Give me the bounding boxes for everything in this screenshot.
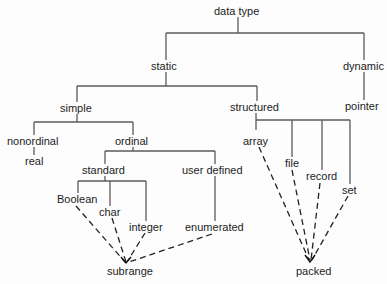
node-set: set (341, 184, 358, 196)
node-enumerated: enumerated (184, 221, 245, 233)
node-pointer: pointer (344, 100, 380, 112)
node-array: array (242, 135, 269, 147)
node-dynamic: dynamic (342, 60, 385, 72)
node-structured: structured (229, 101, 280, 113)
node-packed: packed (295, 265, 332, 277)
node-char: char (98, 206, 121, 218)
node-standard: standard (81, 164, 126, 176)
node-simple: simple (59, 102, 93, 114)
node-file: file (284, 157, 300, 169)
node-data-type: data type (213, 5, 260, 17)
node-user-defined: user defined (181, 164, 244, 176)
node-integer: integer (128, 221, 164, 233)
node-nonordinal: nonordinal (6, 135, 59, 147)
node-record: record (305, 170, 338, 182)
node-static: static (150, 60, 178, 72)
data-type-tree-diagram: data type static dynamic simple structur… (0, 0, 387, 284)
node-boolean: Boolean (56, 193, 98, 205)
node-ordinal: ordinal (114, 135, 149, 147)
node-real: real (24, 155, 44, 167)
node-subrange: subrange (106, 265, 154, 277)
